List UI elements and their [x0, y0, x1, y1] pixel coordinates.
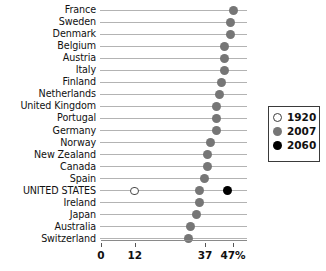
data-point-2007: [217, 78, 226, 87]
row-gridline: [100, 142, 247, 143]
category-label-ireland: Ireland: [0, 197, 96, 209]
data-point-2007: [184, 234, 193, 243]
x-tick: [135, 243, 136, 247]
row-gridline: [100, 154, 247, 155]
open-circle-icon: [273, 113, 282, 122]
data-point-2007: [195, 198, 204, 207]
row-gridline: [100, 94, 247, 95]
category-label-japan: Japan: [0, 209, 96, 221]
legend-label-1920: 1920: [287, 111, 316, 123]
row-gridline: [100, 178, 247, 179]
row-gridline: [100, 34, 247, 35]
data-point-2007: [206, 138, 215, 147]
chart-legend: 1920 2007 2060: [268, 106, 320, 162]
chart-row: France: [0, 4, 326, 16]
category-label-belgium: Belgium: [0, 40, 96, 52]
legend-item-2060: 2060: [273, 138, 313, 152]
data-point-2007: [195, 186, 204, 195]
data-point-2060: [223, 186, 233, 196]
legend-label-2060: 2060: [287, 139, 316, 151]
legend-label-2007: 2007: [287, 125, 316, 137]
x-tick-label: 12: [127, 249, 142, 261]
row-gridline: [100, 202, 247, 203]
chart-row: Ireland: [0, 197, 326, 209]
x-tick: [233, 243, 234, 247]
category-label-canada: Canada: [0, 161, 96, 173]
data-point-2007: [203, 162, 212, 171]
chart-row: UNITED STATES: [0, 185, 326, 197]
category-label-norway: Norway: [0, 137, 96, 149]
category-label-sweden: Sweden: [0, 16, 96, 28]
category-label-austria: Austria: [0, 52, 96, 64]
data-point-2007: [215, 90, 224, 99]
row-gridline: [100, 166, 247, 167]
chart-row: Spain: [0, 173, 326, 185]
x-tick-label: 37: [198, 249, 213, 261]
legend-item-1920: 1920: [273, 110, 313, 124]
chart-row: Belgium: [0, 40, 326, 52]
row-gridline: [100, 106, 247, 107]
category-label-finland: Finland: [0, 76, 96, 88]
chart-row: Netherlands: [0, 88, 326, 100]
chart-row: Sweden: [0, 16, 326, 28]
category-label-germany: Germany: [0, 125, 96, 137]
category-label-spain: Spain: [0, 173, 96, 185]
chart-row: Finland: [0, 76, 326, 88]
data-point-2007: [229, 6, 238, 15]
legend-item-2007: 2007: [273, 124, 313, 138]
category-label-portugal: Portugal: [0, 112, 96, 124]
dot-plot-chart: FranceSwedenDenmarkBelgiumAustriaItalyFi…: [0, 0, 326, 271]
data-point-2007: [186, 222, 195, 231]
black-circle-icon: [273, 141, 282, 150]
category-label-australia: Australia: [0, 221, 96, 233]
x-tick: [205, 243, 206, 247]
data-point-2007: [212, 114, 221, 123]
data-point-2007: [200, 174, 209, 183]
chart-row: Italy: [0, 64, 326, 76]
chart-row: Denmark: [0, 28, 326, 40]
category-label-france: France: [0, 4, 96, 16]
category-label-denmark: Denmark: [0, 28, 96, 40]
x-tick: [101, 243, 102, 247]
chart-row: Canada: [0, 161, 326, 173]
row-gridline: [100, 10, 247, 11]
x-tick-label: 47%: [220, 249, 245, 261]
x-axis-line: [101, 240, 247, 241]
data-point-2007: [220, 66, 229, 75]
data-point-2007: [203, 150, 212, 159]
chart-row: Japan: [0, 209, 326, 221]
chart-row: Switzerland: [0, 233, 326, 245]
chart-row: Austria: [0, 52, 326, 64]
data-point-2007: [226, 18, 235, 27]
row-gridline: [100, 130, 247, 131]
data-point-1920: [130, 187, 139, 196]
data-point-2007: [192, 210, 201, 219]
category-label-switzerland: Switzerland: [0, 233, 96, 245]
category-label-united-states: UNITED STATES: [0, 185, 96, 197]
category-label-new-zealand: New Zealand: [0, 149, 96, 161]
data-point-2007: [220, 54, 229, 63]
data-point-2007: [212, 126, 221, 135]
data-point-2007: [226, 30, 235, 39]
category-label-united-kingdom: United Kingdom: [0, 100, 96, 112]
row-gridline: [100, 118, 247, 119]
data-point-2007: [220, 42, 229, 51]
category-label-netherlands: Netherlands: [0, 88, 96, 100]
x-tick-label: 0: [97, 249, 104, 261]
row-gridline: [100, 22, 247, 23]
gray-circle-icon: [273, 127, 282, 136]
category-label-italy: Italy: [0, 64, 96, 76]
chart-row: Australia: [0, 221, 326, 233]
row-gridline: [100, 214, 247, 215]
data-point-2007: [212, 102, 221, 111]
row-gridline: [100, 226, 247, 227]
